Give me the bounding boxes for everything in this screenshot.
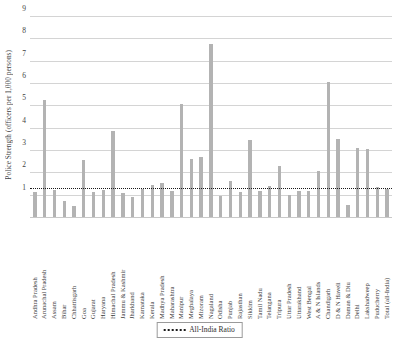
bar: [102, 190, 105, 218]
x-label-slot: West Bengal: [304, 221, 314, 319]
x-axis-tick-label: Uttar Pradesh: [286, 221, 293, 319]
plot-area: 123456789: [30, 17, 392, 218]
x-label-slot: Madhya Pradesh: [157, 221, 167, 319]
bar: [53, 190, 56, 218]
x-label-slot: Maharashtra: [167, 221, 177, 319]
bar: [258, 191, 261, 218]
x-label-slot: D & N Haveli: [333, 221, 343, 319]
bar: [288, 195, 291, 218]
x-label-slot: Andhra Pradesh: [30, 221, 40, 319]
x-axis-tick-label: Lakshadweep: [364, 221, 371, 319]
x-label-slot: Meghalaya: [187, 221, 197, 319]
x-label-slot: Jammu & Kashmir: [118, 221, 128, 319]
x-label-slot: Kerala: [147, 221, 157, 319]
x-axis-tick-label: Madhya Pradesh: [159, 221, 166, 319]
x-label-slot: Gujarat: [89, 221, 99, 319]
x-label-slot: Bihar: [59, 221, 69, 319]
x-label-slot: Telangana: [265, 221, 275, 319]
y-axis-tick-7: 7: [6, 48, 26, 57]
bar: [121, 193, 124, 218]
bar: [268, 186, 271, 218]
x-axis-tick-label: Haryana: [100, 221, 107, 319]
y-axis-tick-2: 2: [6, 160, 26, 169]
y-axis-tick-1: 1: [6, 182, 26, 191]
x-axis-tick-label: Odisha: [217, 221, 224, 319]
bar: [229, 181, 232, 218]
x-label-slot: Mizoram: [196, 221, 206, 319]
x-axis-tick-label: Uttarakhand: [296, 221, 303, 319]
x-axis-tick-label: Tamil Nadu: [257, 221, 264, 319]
x-axis-tick-label: Gujarat: [90, 221, 97, 319]
x-axis-tick-label: A & N Islands: [315, 221, 322, 319]
all-india-ratio-legend-label: All-India Ratio: [189, 325, 235, 334]
x-label-slot: A & N Islands: [314, 221, 324, 319]
bar: [336, 139, 339, 218]
x-label-slot: Arunachal Pradesh: [40, 221, 50, 319]
bar: [376, 187, 379, 218]
x-label-slot: Goa: [79, 221, 89, 319]
x-axis-labels: Andhra PradeshArunachal PradeshAssamBiha…: [30, 221, 392, 319]
x-label-slot: Assam: [50, 221, 60, 319]
bar: [248, 140, 251, 218]
police-strength-bar-chart: Police Strength (officers per 1,000 pers…: [0, 0, 399, 345]
bar: [170, 191, 173, 218]
bar: [317, 171, 320, 218]
x-label-slot: Haryana: [98, 221, 108, 319]
chart-legend: All-India Ratio: [156, 322, 243, 338]
y-axis-tick-9: 9: [6, 4, 26, 13]
y-axis-tick-5: 5: [6, 93, 26, 102]
bar: [356, 148, 359, 218]
x-axis-tick-label: Manipur: [178, 221, 185, 319]
x-label-slot: Nagaland: [206, 221, 216, 319]
bar: [366, 149, 369, 218]
x-label-slot: Punjab: [226, 221, 236, 319]
bar: [43, 100, 46, 218]
x-axis-tick-label: Daman & Diu: [345, 221, 352, 319]
x-axis-tick-label: Assam: [51, 221, 58, 319]
bar: [209, 44, 212, 218]
bar: [151, 185, 154, 218]
x-axis-tick-label: Meghalaya: [188, 221, 195, 319]
bar: [346, 205, 349, 218]
x-axis-tick-label: Nagaland: [208, 221, 215, 319]
x-label-slot: Odisha: [216, 221, 226, 319]
x-label-slot: Jharkhand: [128, 221, 138, 319]
x-axis-tick-label: Telangana: [266, 221, 273, 319]
x-axis-tick-label: Delhi: [354, 221, 361, 319]
x-label-slot: Rajasthan: [235, 221, 245, 319]
bar: [239, 192, 242, 218]
bar: [297, 191, 300, 218]
x-axis-tick-label: Puducherry: [374, 221, 381, 319]
x-axis-tick-label: Chandigarh: [325, 221, 332, 319]
x-label-slot: Daman & Diu: [343, 221, 353, 319]
bar: [92, 192, 95, 218]
x-label-slot: Karnataka: [138, 221, 148, 319]
x-axis-tick-label: Goa: [81, 221, 88, 319]
x-axis-tick-label: Sikkim: [247, 221, 254, 319]
bar: [307, 191, 310, 218]
x-axis-tick-label: Jammu & Kashmir: [120, 221, 127, 319]
y-axis-tick-8: 8: [6, 26, 26, 35]
bar: [33, 192, 36, 218]
bar: [131, 197, 134, 218]
x-axis-tick-label: Tripura: [276, 221, 283, 319]
x-label-slot: Sikkim: [245, 221, 255, 319]
x-label-slot: Uttar Pradesh: [284, 221, 294, 319]
x-axis-tick-label: Jharkhand: [129, 221, 136, 319]
x-label-slot: Manipur: [177, 221, 187, 319]
y-axis-tick-4: 4: [6, 115, 26, 124]
x-axis-tick-label: Mizoram: [198, 221, 205, 319]
x-axis-tick-label: Bihar: [61, 221, 68, 319]
bar: [278, 166, 281, 218]
x-label-slot: Chandigarh: [323, 221, 333, 319]
bar: [180, 104, 183, 218]
x-axis-tick-label: Punjab: [227, 221, 234, 319]
x-axis-tick-label: Kerala: [149, 221, 156, 319]
x-label-slot: Delhi: [353, 221, 363, 319]
x-label-slot: Tripura: [275, 221, 285, 319]
x-axis-tick-label: Rajasthan: [237, 221, 244, 319]
bar: [82, 160, 85, 218]
bar: [385, 189, 388, 218]
x-label-slot: Lakshadweep: [363, 221, 373, 319]
x-axis-baseline: [30, 217, 392, 218]
